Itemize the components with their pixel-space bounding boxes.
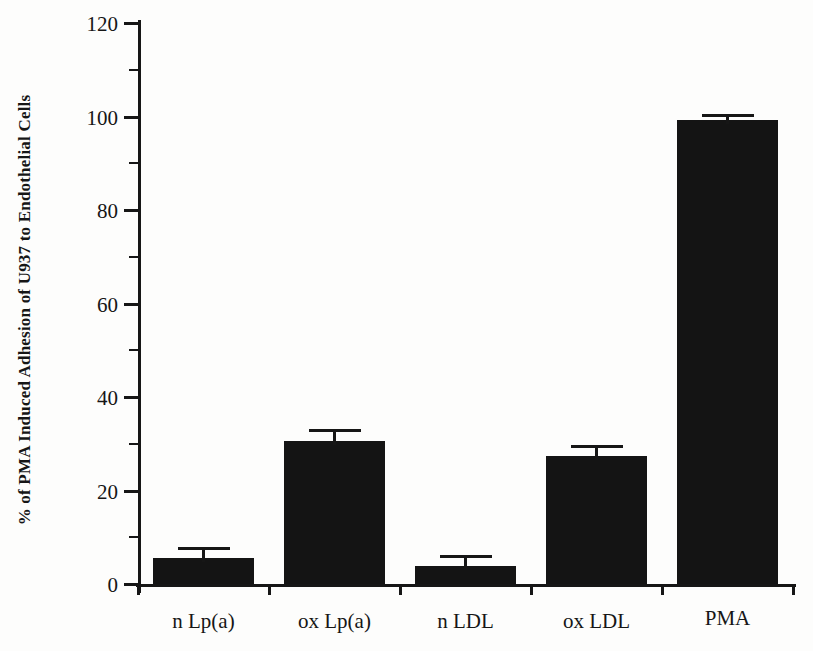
error-bar-cap (702, 114, 754, 117)
error-bar-cap (178, 547, 230, 550)
bar (284, 441, 385, 584)
y-tick-label: 120 (66, 12, 118, 36)
error-bar-cap (309, 429, 361, 432)
x-tick-label: n LDL (401, 609, 531, 633)
y-minor-tick (129, 443, 141, 445)
y-major-tick (124, 209, 141, 212)
x-tick-label: PMA (663, 606, 793, 630)
y-axis-line (138, 20, 141, 593)
y-major-tick (124, 22, 141, 25)
error-bar-cap (440, 555, 492, 558)
y-tick-label: 20 (66, 480, 118, 504)
x-tick-label: ox Lp(a) (270, 609, 400, 633)
y-major-tick (124, 116, 141, 119)
y-minor-tick (129, 256, 141, 258)
x-boundary-tick (661, 584, 664, 595)
y-minor-tick (129, 162, 141, 164)
y-minor-tick (129, 69, 141, 71)
bar (677, 120, 778, 584)
x-boundary-tick (530, 584, 533, 595)
x-boundary-tick (399, 584, 402, 595)
y-tick-label: 100 (66, 106, 118, 130)
bar-chart-figure: % of PMA Induced Adhesion of U937 to End… (0, 0, 813, 651)
x-boundary-tick (792, 584, 795, 595)
x-boundary-tick (137, 584, 140, 595)
y-tick-label: 60 (66, 293, 118, 317)
x-boundary-tick (268, 584, 271, 595)
y-minor-tick (129, 536, 141, 538)
x-tick-label: ox LDL (532, 609, 662, 633)
y-minor-tick (129, 349, 141, 351)
y-axis-title: % of PMA Induced Adhesion of U937 to End… (15, 30, 37, 590)
y-tick-label: 0 (66, 573, 118, 597)
y-tick-label: 40 (66, 386, 118, 410)
y-major-tick (124, 396, 141, 399)
x-tick-label: n Lp(a) (139, 609, 269, 633)
y-major-tick (124, 490, 141, 493)
bar (546, 456, 647, 584)
error-bar-cap (571, 445, 623, 448)
x-axis-line (136, 584, 796, 587)
y-major-tick (124, 303, 141, 306)
y-tick-label: 80 (66, 199, 118, 223)
